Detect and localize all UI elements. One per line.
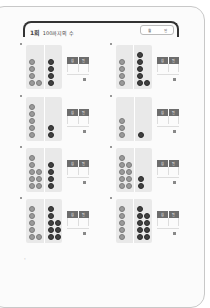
dot-icon bbox=[137, 66, 143, 72]
dot-panel bbox=[116, 199, 152, 243]
dot-icon bbox=[29, 155, 35, 161]
dot-icon bbox=[119, 206, 125, 212]
dot-icon bbox=[48, 66, 54, 72]
dot-icon bbox=[137, 227, 143, 233]
ones-answer-cell[interactable] bbox=[79, 167, 90, 175]
dot-icon bbox=[119, 66, 125, 72]
dot-icon bbox=[48, 227, 54, 233]
dot-icon bbox=[29, 169, 35, 175]
dot-icon bbox=[119, 132, 125, 138]
exercise-4: 십일 bbox=[110, 95, 190, 143]
dot-icon bbox=[29, 80, 35, 86]
dot-icon bbox=[137, 220, 143, 226]
dot-icon bbox=[48, 176, 54, 182]
month-label: 월 bbox=[148, 28, 151, 33]
dots-right bbox=[134, 148, 152, 192]
tens-header: 십 bbox=[67, 211, 78, 218]
dot-icon bbox=[36, 169, 42, 175]
exercise-bullet bbox=[20, 197, 22, 199]
answer-table: 십일 bbox=[157, 109, 179, 135]
dot-icon bbox=[144, 213, 150, 219]
tens-header: 십 bbox=[157, 211, 168, 218]
tens-answer-cell[interactable] bbox=[158, 116, 169, 124]
total-answer-cell[interactable] bbox=[67, 74, 89, 83]
tens-answer-cell[interactable] bbox=[68, 64, 79, 72]
total-answer-cell[interactable] bbox=[67, 177, 89, 186]
total-answer-cell[interactable] bbox=[157, 126, 179, 135]
dot-icon bbox=[36, 176, 42, 182]
total-answer-cell[interactable] bbox=[157, 177, 179, 186]
dots-left bbox=[26, 199, 44, 243]
dot-icon bbox=[36, 234, 42, 240]
unit-mark-icon bbox=[83, 78, 86, 81]
tens-header: 십 bbox=[157, 109, 168, 116]
dot-icon bbox=[144, 234, 150, 240]
lesson-number: 1회 bbox=[30, 29, 40, 36]
answer-table: 십일 bbox=[67, 57, 89, 83]
total-answer-cell[interactable] bbox=[67, 126, 89, 135]
tens-answer-cell[interactable] bbox=[158, 64, 169, 72]
dot-icon bbox=[48, 59, 54, 65]
exercise-3: 십일 bbox=[20, 95, 100, 143]
ones-answer-cell[interactable] bbox=[169, 64, 180, 72]
dot-icon bbox=[119, 183, 125, 189]
dot-icon bbox=[119, 176, 125, 182]
answer-table: 십일 bbox=[157, 211, 179, 237]
dot-icon bbox=[126, 176, 132, 182]
dots-left bbox=[26, 148, 44, 192]
tens-answer-cell[interactable] bbox=[68, 116, 79, 124]
answer-table: 십일 bbox=[157, 57, 179, 83]
total-answer-cell[interactable] bbox=[157, 228, 179, 237]
dot-icon bbox=[119, 162, 125, 168]
dot-icon bbox=[29, 132, 35, 138]
dot-icon bbox=[137, 59, 143, 65]
dot-icon bbox=[29, 104, 35, 110]
dot-icon bbox=[48, 125, 54, 131]
dots-right bbox=[44, 45, 62, 89]
lesson-title: 100까지의 수 bbox=[43, 30, 74, 36]
dot-icon bbox=[119, 59, 125, 65]
dot-icon bbox=[137, 52, 143, 58]
dots-right bbox=[44, 97, 63, 141]
tens-header: 십 bbox=[67, 160, 78, 167]
total-answer-cell[interactable] bbox=[67, 228, 89, 237]
ones-answer-cell[interactable] bbox=[79, 64, 90, 72]
ones-answer-cell[interactable] bbox=[169, 218, 180, 226]
dot-icon bbox=[144, 80, 150, 86]
dot-icon bbox=[48, 220, 54, 226]
dot-icon bbox=[48, 132, 54, 138]
dot-icon bbox=[119, 73, 125, 79]
date-box[interactable]: 월 일 bbox=[140, 25, 174, 35]
tens-header: 십 bbox=[67, 109, 78, 116]
tens-answer-cell[interactable] bbox=[158, 167, 169, 175]
ones-header: 일 bbox=[79, 160, 90, 167]
tens-answer-cell[interactable] bbox=[68, 167, 79, 175]
dot-icon bbox=[119, 169, 125, 175]
unit-mark-icon bbox=[83, 232, 86, 235]
total-answer-cell[interactable] bbox=[157, 74, 179, 83]
dot-icon bbox=[36, 80, 42, 86]
dot-icon bbox=[144, 220, 150, 226]
dot-icon bbox=[137, 80, 143, 86]
dot-icon bbox=[119, 220, 125, 226]
dot-icon bbox=[137, 73, 143, 79]
ones-answer-cell[interactable] bbox=[169, 167, 180, 175]
dot-icon bbox=[138, 132, 144, 138]
answer-table: 십일 bbox=[157, 160, 179, 186]
tens-answer-cell[interactable] bbox=[68, 218, 79, 226]
dots-right bbox=[133, 199, 152, 243]
tens-answer-cell[interactable] bbox=[158, 218, 169, 226]
exercise-bullet bbox=[20, 95, 22, 97]
dot-panel bbox=[26, 148, 62, 192]
unit-mark-icon bbox=[173, 232, 176, 235]
answer-table: 십일 bbox=[67, 160, 89, 186]
exercise-bullet bbox=[110, 146, 112, 148]
ones-answer-cell[interactable] bbox=[79, 116, 90, 124]
ones-answer-cell[interactable] bbox=[79, 218, 90, 226]
ones-header: 일 bbox=[79, 211, 90, 218]
page-title: 1회 100까지의 수 bbox=[30, 28, 74, 37]
tens-header: 십 bbox=[157, 57, 168, 64]
ones-answer-cell[interactable] bbox=[169, 116, 180, 124]
dot-icon bbox=[29, 206, 35, 212]
ones-header: 일 bbox=[169, 211, 180, 218]
